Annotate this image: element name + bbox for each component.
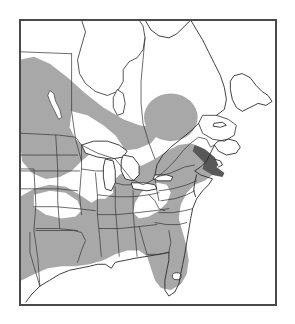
distribution-map-figure: Eastern North America bbox=[0, 0, 295, 324]
map-canvas bbox=[20, 20, 276, 305]
range-patch-quebec bbox=[144, 93, 198, 141]
map-frame bbox=[19, 19, 277, 306]
james-bay bbox=[113, 90, 125, 116]
lake-michigan bbox=[103, 159, 115, 191]
